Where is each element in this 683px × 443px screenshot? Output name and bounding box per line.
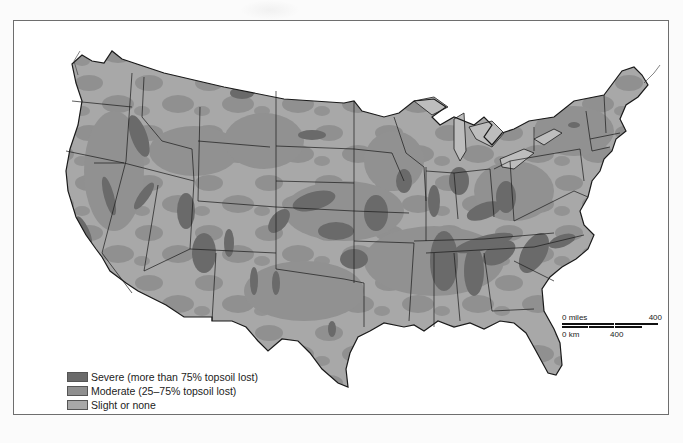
scale-tick [588, 325, 589, 328]
severe-swatch [67, 372, 88, 382]
scale-km-start: 0 km [562, 330, 579, 339]
scale-tick [614, 323, 615, 328]
legend-label: Severe (more than 75% topsoil lost) [91, 371, 258, 383]
legend-item-moderate: Moderate (25–75% topsoil lost) [67, 384, 258, 398]
slight-swatch [67, 400, 88, 410]
map-legend: Severe (more than 75% topsoil lost) Mode… [67, 370, 258, 412]
legend-item-slight: Slight or none [67, 398, 258, 412]
scale-miles-start: 0 miles [562, 313, 587, 322]
land-area [14, 21, 668, 414]
us-erosion-map [14, 21, 668, 414]
legend-label: Slight or none [91, 399, 156, 411]
moderate-swatch [67, 386, 88, 396]
scale-miles-bar [562, 323, 658, 325]
scale-km-bar [562, 326, 642, 328]
legend-label: Moderate (25–75% topsoil lost) [91, 385, 236, 397]
scale-bar: 0 miles 400 0 km 400 [562, 313, 662, 343]
scale-miles-end: 400 [649, 313, 662, 322]
legend-item-severe: Severe (more than 75% topsoil lost) [67, 370, 258, 384]
faded-watermark [240, 0, 300, 20]
map-frame: Severe (more than 75% topsoil lost) Mode… [13, 20, 669, 415]
scale-km-end: 400 [610, 330, 623, 339]
